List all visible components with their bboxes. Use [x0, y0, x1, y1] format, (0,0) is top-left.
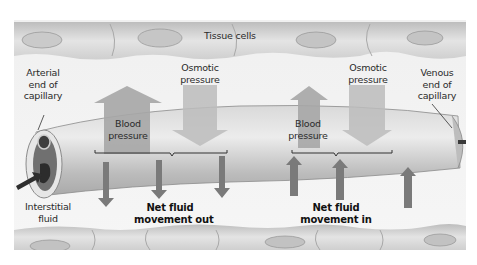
arterial-end-label: Arterial end of capillary [20, 67, 66, 102]
net-fluid-in-label: Net fluid movement in [300, 202, 372, 226]
net-fluid-out-label: Net fluid movement out [134, 202, 206, 226]
left-osmotic-pressure-label: Osmotic pressure [178, 62, 222, 85]
right-osmotic-pressure-label: Osmotic pressure [346, 62, 390, 85]
left-blood-pressure-label: Blood pressure [106, 118, 150, 141]
capillary-exchange-diagram: Tissue cells Arterial end of capillary V… [0, 0, 477, 265]
tissue-cells-label: Tissue cells [204, 30, 256, 42]
venous-end-label: Venous end of capillary [412, 67, 462, 102]
interstitial-fluid-label: Interstitial fluid [18, 201, 78, 224]
right-blood-pressure-label: Blood pressure [286, 118, 330, 141]
